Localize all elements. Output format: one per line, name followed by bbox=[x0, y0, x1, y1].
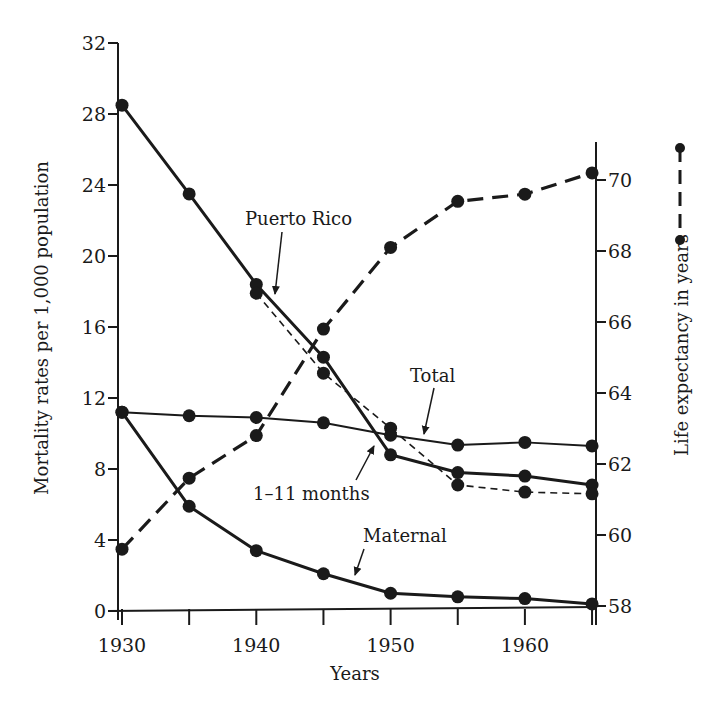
data-point bbox=[183, 500, 196, 513]
data-point bbox=[451, 439, 464, 452]
data-point bbox=[586, 487, 599, 500]
data-point bbox=[317, 567, 330, 580]
y-axis-title: Mortality rates per 1,000 population bbox=[31, 161, 52, 495]
data-point bbox=[451, 466, 464, 479]
puerto-rico-arrow bbox=[275, 232, 282, 294]
data-point bbox=[451, 195, 464, 208]
y2-tick-label: 70 bbox=[608, 169, 632, 191]
x-axis-title: Years bbox=[329, 663, 380, 684]
series-layer bbox=[116, 99, 599, 611]
data-point bbox=[518, 470, 531, 483]
y-tick-label: 8 bbox=[94, 458, 106, 480]
y-tick-label: 12 bbox=[82, 387, 106, 409]
series-1-11-months bbox=[116, 99, 599, 492]
x-tick-label: 1950 bbox=[366, 634, 414, 656]
data-point bbox=[586, 439, 599, 452]
data-point bbox=[451, 590, 464, 603]
x-tick-label: 1940 bbox=[232, 634, 280, 656]
y-tick-label: 4 bbox=[94, 529, 106, 551]
months-label: 1–11 months bbox=[253, 483, 370, 504]
series-total bbox=[116, 406, 599, 453]
annotations: Puerto Rico Total 1–11 months Maternal bbox=[245, 208, 455, 575]
data-point bbox=[518, 592, 531, 605]
data-point bbox=[384, 448, 397, 461]
data-point bbox=[384, 429, 397, 442]
total-arrow bbox=[424, 388, 434, 434]
data-point bbox=[586, 597, 599, 610]
x-tick-label: 1960 bbox=[501, 634, 549, 656]
y2-tick-label: 64 bbox=[608, 382, 632, 404]
series-puerto-rico bbox=[250, 287, 599, 501]
legend-marker-top bbox=[675, 143, 685, 153]
x-axis bbox=[108, 607, 596, 611]
y-tick-label: 0 bbox=[94, 600, 106, 622]
data-point bbox=[250, 429, 263, 442]
legend-marker-bottom bbox=[675, 235, 685, 245]
y2-tick-label: 60 bbox=[608, 524, 632, 546]
data-point bbox=[116, 406, 129, 419]
data-point bbox=[250, 287, 263, 300]
y2-tick-label: 66 bbox=[608, 311, 632, 333]
data-point bbox=[183, 409, 196, 422]
y2-tick-label: 62 bbox=[608, 453, 632, 475]
data-point bbox=[518, 436, 531, 449]
legend-life-expectancy bbox=[675, 143, 685, 245]
data-point bbox=[250, 544, 263, 557]
data-point bbox=[317, 351, 330, 364]
data-point bbox=[586, 166, 599, 179]
y-tick-label: 16 bbox=[82, 316, 106, 338]
y-tick-label: 24 bbox=[82, 174, 106, 196]
data-point bbox=[116, 543, 129, 556]
data-point bbox=[317, 367, 330, 380]
y2-axis-title: Life expectancy in years bbox=[671, 234, 692, 456]
maternal-label: Maternal bbox=[363, 525, 447, 546]
data-point bbox=[384, 241, 397, 254]
data-point bbox=[250, 411, 263, 424]
puerto-rico-label: Puerto Rico bbox=[245, 208, 352, 229]
data-point bbox=[518, 486, 531, 499]
y-tick-label: 20 bbox=[82, 245, 106, 267]
series-line bbox=[122, 105, 592, 485]
data-point bbox=[451, 478, 464, 491]
data-point bbox=[384, 587, 397, 600]
total-label: Total bbox=[410, 365, 455, 386]
y2-tick-label: 58 bbox=[608, 595, 632, 617]
data-point bbox=[317, 323, 330, 336]
data-point bbox=[518, 188, 531, 201]
y2-tick-label: 68 bbox=[608, 240, 632, 262]
y-tick-label: 32 bbox=[82, 32, 106, 54]
data-point bbox=[116, 99, 129, 112]
y-tick-label: 28 bbox=[82, 103, 106, 125]
axes: 0481216202428325860626466687019301940195… bbox=[82, 32, 632, 656]
data-point bbox=[183, 472, 196, 485]
data-point bbox=[317, 416, 330, 429]
x-tick-label: 1930 bbox=[98, 634, 146, 656]
maternal-arrow bbox=[355, 549, 364, 575]
chart: 0481216202428325860626466687019301940195… bbox=[0, 0, 720, 708]
months-arrow bbox=[356, 446, 374, 480]
data-point bbox=[183, 187, 196, 200]
